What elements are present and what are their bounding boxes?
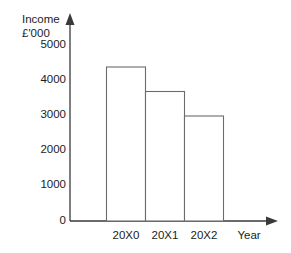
x-tick-label-20X2: 20X2 <box>191 229 218 241</box>
y-axis-arrowhead <box>66 13 75 25</box>
y-tick-label-5000: 5000 <box>40 38 66 50</box>
chart-canvas: Income £'000 5000 4000 3000 2000 1000 0 … <box>0 0 291 253</box>
y-tick-label-4000: 4000 <box>40 73 66 85</box>
bar-20X1 <box>146 92 185 222</box>
bar-chart-figure: Income £'000 5000 4000 3000 2000 1000 0 … <box>0 0 291 253</box>
y-tick-label-1000: 1000 <box>40 178 66 190</box>
y-tick-label-0: 0 <box>60 214 66 226</box>
y-tick-label-3000: 3000 <box>40 108 66 120</box>
bar-20X0 <box>107 67 146 221</box>
x-tick-label-20X1: 20X1 <box>152 229 179 241</box>
x-tick-label-20X0: 20X0 <box>113 229 140 241</box>
y-tick-label-2000: 2000 <box>40 143 66 155</box>
y-axis-title: Income <box>22 13 60 25</box>
x-axis-arrowhead <box>266 217 278 226</box>
bar-20X2 <box>185 116 224 221</box>
x-axis-title: Year <box>237 229 260 241</box>
